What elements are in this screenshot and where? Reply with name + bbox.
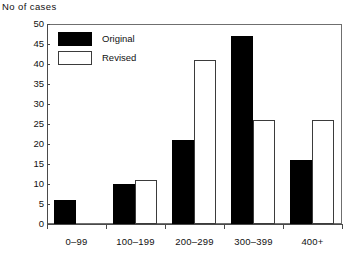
y-tick-mark — [47, 44, 50, 45]
y-tick-label: 40 — [4, 59, 44, 69]
x-tick-label: 400+ — [283, 236, 342, 247]
legend-swatch-original-icon — [58, 32, 92, 46]
y-tick-label: 15 — [4, 159, 44, 169]
y-tick-mark — [47, 124, 50, 125]
x-axis-line — [47, 224, 343, 225]
bar-original — [113, 184, 135, 224]
bar-revised — [135, 180, 157, 224]
y-tick-mark — [47, 204, 50, 205]
y-tick-mark — [47, 164, 50, 165]
y-tick-mark — [47, 184, 50, 185]
y-tick-mark — [47, 104, 50, 105]
y-axis-ticks: 05101520253035404550 — [0, 0, 44, 258]
x-tick-mark — [165, 225, 166, 229]
bar-revised — [194, 60, 216, 224]
legend-label-original: Original — [102, 33, 135, 44]
bar-chart: No of cases 05101520253035404550 0–99100… — [0, 0, 350, 258]
x-tick-mark — [47, 225, 48, 229]
bar-original — [172, 140, 194, 224]
y-tick-label: 45 — [4, 39, 44, 49]
legend-label-revised: Revised — [102, 52, 136, 63]
legend-swatch-revised-icon — [58, 51, 92, 65]
x-tick-label: 300–399 — [224, 236, 283, 247]
y-tick-label: 30 — [4, 99, 44, 109]
x-tick-mark — [283, 225, 284, 229]
x-tick-mark — [106, 225, 107, 229]
bar-revised — [312, 120, 334, 224]
y-tick-label: 35 — [4, 79, 44, 89]
bar-revised — [253, 120, 275, 224]
x-tick-mark — [224, 225, 225, 229]
y-tick-label: 20 — [4, 139, 44, 149]
y-tick-label: 50 — [4, 19, 44, 29]
y-tick-label: 5 — [4, 199, 44, 209]
y-tick-mark — [47, 144, 50, 145]
y-tick-mark — [47, 64, 50, 65]
x-tick-label: 100–199 — [106, 236, 165, 247]
y-tick-label: 10 — [4, 179, 44, 189]
x-tick-label: 0–99 — [47, 236, 106, 247]
y-tick-mark — [47, 24, 50, 25]
x-tick-label: 200–299 — [165, 236, 224, 247]
bar-original — [290, 160, 312, 224]
y-tick-mark — [47, 84, 50, 85]
x-tick-mark — [342, 225, 343, 229]
bar-original — [54, 200, 76, 224]
bar-original — [231, 36, 253, 224]
y-tick-label: 25 — [4, 119, 44, 129]
y-tick-label: 0 — [4, 219, 44, 229]
